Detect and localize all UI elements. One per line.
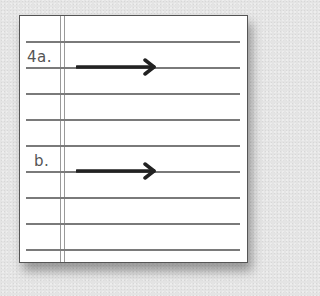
rule-line: [26, 223, 240, 225]
margin-line-left: [60, 16, 61, 262]
rule-line: [26, 93, 240, 95]
rule-line: [26, 41, 240, 43]
margin-line-right: [64, 16, 65, 262]
rule-line: [26, 197, 240, 199]
lined-paper: 4a. b.: [19, 15, 248, 263]
rule-line: [26, 119, 240, 121]
item-label-4a: 4a.: [27, 48, 52, 66]
right-arrow-icon: [76, 58, 158, 76]
item-label-b: b.: [34, 152, 49, 170]
right-arrow-icon: [76, 162, 158, 180]
rule-line: [26, 145, 240, 147]
rule-line: [26, 249, 240, 251]
